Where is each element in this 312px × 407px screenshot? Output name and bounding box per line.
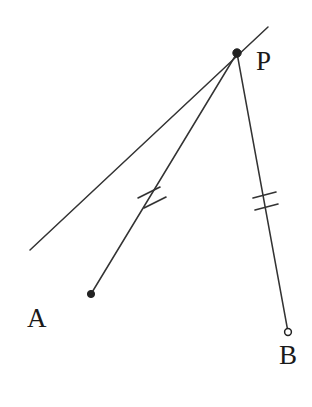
segment-pb xyxy=(237,53,288,332)
point-label-b: B xyxy=(279,342,297,369)
tick-pb-2 xyxy=(255,204,278,210)
point-a-marker xyxy=(87,290,94,297)
point-label-a: A xyxy=(27,305,47,332)
tick-group-pa xyxy=(138,187,166,208)
point-label-p: P xyxy=(256,48,271,75)
point-p-marker xyxy=(233,49,241,57)
tick-pa-1 xyxy=(138,187,160,198)
geometry-diagram-canvas: A P B xyxy=(0,0,312,407)
tick-group-pb xyxy=(253,192,278,210)
segment-pa xyxy=(91,53,237,294)
point-b-marker xyxy=(285,329,292,336)
tick-pb-1 xyxy=(253,192,276,198)
